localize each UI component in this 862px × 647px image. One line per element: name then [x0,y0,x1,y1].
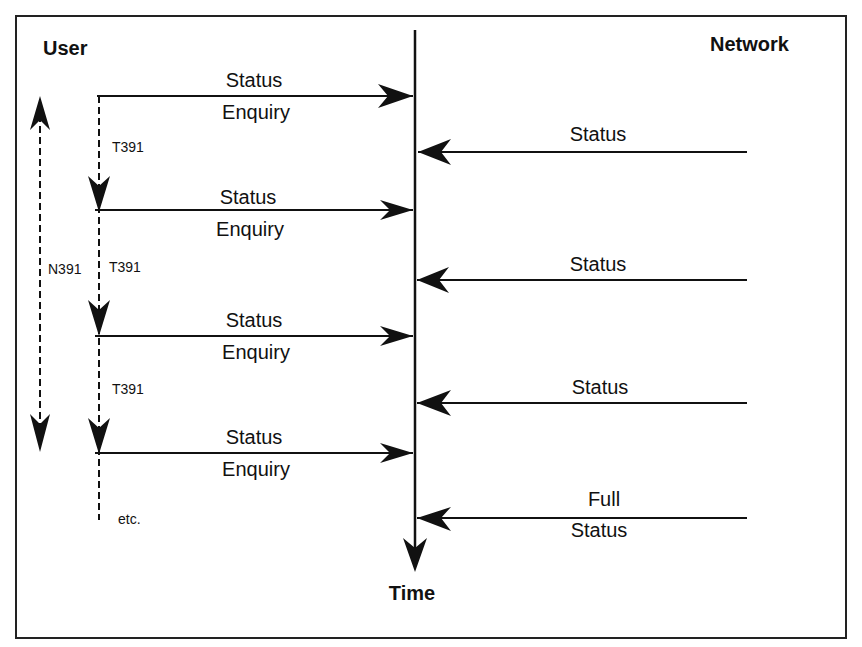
user-message-line1: Status [220,187,277,207]
time-axis-label: Time [389,583,435,603]
participant-network-label: Network [710,34,789,54]
t391-arrowhead-icon [88,176,110,212]
user-message-line1: Status [226,70,283,90]
n391-counter-label: N391 [48,262,81,276]
t391-arrowhead-icon [88,418,110,454]
n391-up-arrowhead-icon [30,96,50,130]
diagram-canvas [0,0,862,647]
user-message-line1: Status [226,310,283,330]
user-message-line2: Enquiry [216,219,284,239]
user-message-line1: Status [226,427,283,447]
network-message-line1: Full [588,489,620,509]
continuation-label: etc. [118,512,141,526]
t391-timer-label: T391 [112,382,144,396]
user-message-line2: Enquiry [222,459,290,479]
network-message-line1: Status [570,124,627,144]
n391-down-arrowhead-icon [30,414,50,452]
user-message-line2: Enquiry [222,102,290,122]
network-message-line1: Status [572,377,629,397]
network-message-line2: Status [571,520,628,540]
t391-timer-label: T391 [109,260,141,274]
t391-timer-label: T391 [112,140,144,154]
status-arrows [417,139,747,531]
user-message-line2: Enquiry [222,342,290,362]
diagram-frame [16,16,846,638]
network-message-line1: Status [570,254,627,274]
participant-user-label: User [43,38,87,58]
